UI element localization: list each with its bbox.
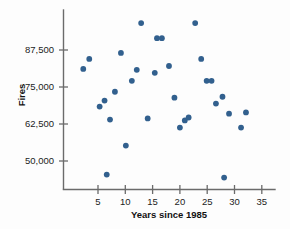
data-points-group — [80, 20, 249, 180]
data-point — [177, 125, 183, 131]
data-point — [221, 175, 227, 181]
x-tick-label: 30 — [229, 196, 240, 207]
y-tick-label: 87,500 — [25, 44, 54, 55]
x-tick-label: 5 — [95, 196, 100, 207]
data-point — [80, 66, 86, 72]
data-point — [129, 78, 135, 84]
data-point — [192, 20, 198, 26]
x-axis-title: Years since 1985 — [131, 209, 208, 220]
y-axis-title: Fires — [16, 84, 27, 107]
data-point — [112, 89, 118, 95]
data-point — [213, 101, 219, 107]
y-tick-label: 50,000 — [25, 155, 54, 166]
data-point — [226, 111, 232, 117]
data-point — [134, 67, 140, 73]
x-tick-label: 25 — [202, 196, 213, 207]
data-point — [166, 63, 172, 69]
data-point — [159, 35, 165, 41]
x-tick-group: 5101520253035 — [95, 185, 267, 207]
y-axis: 50,00062,50075,00087,500 — [25, 10, 68, 189]
data-point — [107, 117, 113, 123]
data-point — [138, 20, 144, 26]
data-point — [152, 70, 158, 76]
data-point — [243, 110, 249, 116]
scatter-plot-figure: 50,00062,50075,00087,500 5101520253035 Y… — [0, 0, 290, 229]
x-tick-label: 35 — [257, 196, 268, 207]
plot-canvas: 50,00062,50075,00087,500 5101520253035 Y… — [0, 0, 290, 229]
x-tick-label: 10 — [120, 196, 131, 207]
data-point — [123, 143, 129, 149]
data-point — [238, 125, 244, 131]
data-point — [172, 95, 178, 101]
x-tick-label: 20 — [175, 196, 186, 207]
x-axis: 5101520253035 — [64, 185, 276, 207]
data-point — [97, 104, 103, 110]
y-tick-label: 75,000 — [25, 81, 54, 92]
data-point — [186, 115, 192, 121]
data-point — [209, 78, 215, 84]
x-tick-label: 15 — [147, 196, 158, 207]
data-point — [145, 115, 151, 121]
data-point — [104, 172, 110, 178]
data-point — [220, 94, 226, 100]
y-tick-label: 62,500 — [25, 118, 54, 129]
y-tick-group: 50,00062,50075,00087,500 — [25, 44, 68, 166]
data-point — [118, 50, 124, 56]
data-point — [102, 98, 108, 104]
data-point — [86, 56, 92, 62]
data-point — [198, 56, 204, 62]
